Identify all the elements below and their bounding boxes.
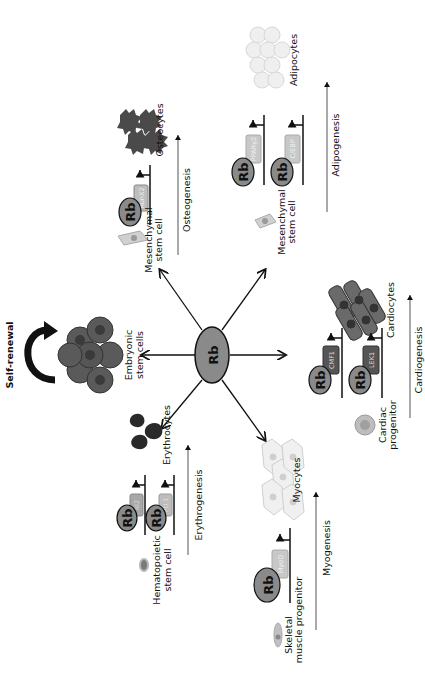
erythro-progenitor-label-2: stem cell xyxy=(162,548,173,591)
rb-osteo: Rb xyxy=(123,202,138,221)
skeletal-progenitor-icon xyxy=(274,623,282,647)
rb-label: Rb xyxy=(206,345,221,364)
self-renewal-label: Self-renewal xyxy=(4,321,15,388)
myogenesis-label: Myogenesis xyxy=(321,520,332,576)
erythrocytes-icon xyxy=(130,414,163,449)
factor-cebp: C/EBP xyxy=(289,139,297,158)
factor-ppar: PPARγ2 xyxy=(250,137,258,161)
arrow-myogenesis xyxy=(222,380,265,440)
cardio-progenitor-label-2: progenitor xyxy=(387,400,398,450)
adipocytes-label: Adipocytes xyxy=(288,34,299,86)
cardiocytes-icon xyxy=(327,279,387,342)
adipocytes-icon xyxy=(246,27,290,88)
rb-differentiation-diagram: Rb Embryonic stem cells Self-renewal xyxy=(0,0,425,675)
erythrogenesis-branch: Erythrocytes Id2 Rb PU.1 Rb Hematopoieti… xyxy=(117,405,204,605)
embryonic-label-2: stem cells xyxy=(134,331,145,379)
rb-cardio-2: Rb xyxy=(353,370,368,389)
myogenesis-branch: Myocytes MyoD Rb Skeletal muscle progeni… xyxy=(254,439,332,663)
embryonic-stem-cells: Embryonic stem cells Self-renewal xyxy=(4,317,145,393)
erythrogenesis-label: Erythrogenesis xyxy=(193,469,204,540)
osteogenesis-label: Osteogenesis xyxy=(181,168,192,232)
cardiogenesis-label: Cardiogenesis xyxy=(413,326,424,393)
rb-adipo-2: Rb xyxy=(275,162,290,181)
rb-erythro-1: Rb xyxy=(120,508,135,527)
myo-progenitor-label-2: muscle progenitor xyxy=(293,577,304,664)
arrow-adipogenesis xyxy=(222,270,265,330)
rb-cardio-1: Rb xyxy=(313,370,328,389)
factor-myod: MyoD xyxy=(277,555,285,573)
osteogenesis-branch: Osteocytes RunX2 Rb Mesenchymal stem cel… xyxy=(117,103,192,272)
cardiocytes-label: Cardiocytes xyxy=(385,282,396,338)
rb-erythro-2: Rb xyxy=(149,508,164,527)
factor-cmf1: CMF1 xyxy=(328,351,336,369)
mesenchymal-cell-icon-2 xyxy=(255,214,276,228)
erythro-progenitor-label-1: Hematopoietic xyxy=(151,535,162,605)
cardiac-progenitor-icon xyxy=(355,415,375,435)
erythrocytes-label: Erythrocytes xyxy=(161,405,172,465)
adipogenesis-branch: Adipocytes PPARγ2 Rb C/EBP Rb Mesenchyma… xyxy=(232,27,341,255)
self-renewal-arrow-icon xyxy=(28,330,55,380)
cardiogenesis-branch: Cardiocytes CMF1 Rb LEK1 Rb Cardiac prog… xyxy=(309,279,424,450)
osteo-progenitor-label-2: stem cell xyxy=(153,218,164,261)
rb-myo: Rb xyxy=(261,575,276,594)
arrow-osteogenesis xyxy=(160,270,202,330)
factor-lek1: LEK1 xyxy=(368,352,376,368)
embryonic-label-1: Embryonic xyxy=(123,330,134,381)
hematopoietic-cell-icon xyxy=(139,558,149,572)
osteocytes-label: Osteocytes xyxy=(154,103,165,156)
central-rb: Rb xyxy=(195,327,229,383)
adipogenesis-label: Adipogenesis xyxy=(330,113,341,176)
rb-adipo-1: Rb xyxy=(236,162,251,181)
adipo-progenitor-label-2: stem cell xyxy=(286,200,297,243)
embryonic-cell-cluster-icon xyxy=(58,317,123,393)
myocytes-label: Myocytes xyxy=(291,457,302,502)
